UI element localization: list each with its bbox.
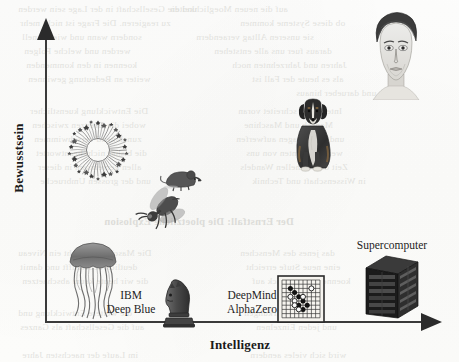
bleed-line: sie unseren Alltag veraendern: [196, 32, 314, 42]
chess-knight-icon: [158, 276, 202, 328]
bleed-line: werden und welche Folgen: [24, 46, 130, 56]
bleed-line: Jahren und Jahrzehnten noch: [232, 60, 346, 70]
y-axis-line: [45, 36, 47, 323]
bleed-line: im Laufe der naechsten Jahre: [22, 350, 138, 360]
bleed-line: auf die neuen Moeglichkeiten: [170, 4, 288, 14]
bleed-line: und jeden Einzelnen: [256, 322, 337, 332]
mouse-icon: [160, 164, 204, 192]
server-rack-icon: [360, 252, 422, 324]
x-axis-title: Intelligenz: [140, 337, 340, 353]
bleed-line: auf die Gesellschaft als Ganzes: [20, 322, 144, 332]
label-deep-blue: IBM Deep Blue: [100, 288, 162, 317]
bleed-line: ob diese Systeme kommen: [240, 18, 345, 28]
bleed-line: eine neue Stufe erreicht: [246, 262, 340, 272]
bleed-line: das jenes des Menschen: [240, 248, 335, 258]
bleed-line: und die Gesellschaft in der Lage sein we…: [18, 4, 197, 14]
x-axis-arrowhead-icon: [421, 313, 442, 331]
human-portrait-icon: [363, 8, 429, 100]
label-supercomputer: Supercomputer: [342, 238, 442, 252]
y-axis-arrowhead-icon: [37, 18, 55, 40]
bleed-line: als es heute der Fall ist: [252, 74, 343, 84]
bleed-line: koennen in den kommenden: [26, 60, 137, 70]
label-alphazero: DeepMind AlphaZero: [214, 288, 290, 317]
bleed-line: daraus fuer uns alle entstehen: [214, 46, 332, 56]
neural-ring-icon: [62, 114, 134, 186]
consciousness-intelligence-figure: und die Gesellschaft in der Lage sein we…: [0, 0, 459, 362]
bleed-line: in Wissenschaft und Technik: [252, 176, 366, 186]
y-axis-title: Bewusstsein: [11, 113, 27, 203]
dog-icon: [288, 96, 338, 174]
